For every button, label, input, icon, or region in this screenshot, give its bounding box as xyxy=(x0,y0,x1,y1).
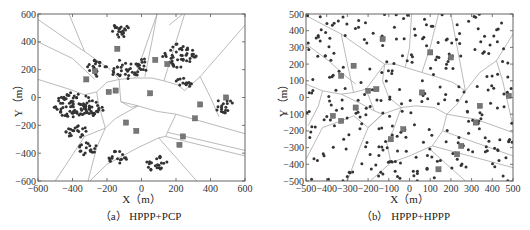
user-point xyxy=(375,98,378,101)
user-point xyxy=(66,94,69,97)
base-station-marker xyxy=(353,105,358,110)
user-point xyxy=(65,105,68,108)
user-point xyxy=(403,37,406,40)
user-point xyxy=(404,136,407,139)
user-point xyxy=(93,151,96,154)
user-point xyxy=(478,127,481,130)
user-point xyxy=(436,160,439,163)
user-point xyxy=(434,58,437,61)
user-point xyxy=(479,117,482,120)
user-point xyxy=(179,66,182,69)
user-point xyxy=(159,156,162,159)
user-point xyxy=(476,85,479,88)
user-point xyxy=(57,99,60,102)
user-point xyxy=(388,95,391,98)
base-station-marker xyxy=(153,57,158,62)
user-point xyxy=(390,72,393,75)
user-point xyxy=(411,55,414,58)
user-point xyxy=(443,98,446,101)
user-point xyxy=(319,15,322,18)
user-point xyxy=(496,40,499,43)
user-point xyxy=(380,126,383,129)
user-point xyxy=(492,87,495,90)
y-tick-label: 100 xyxy=(289,75,304,86)
y-tick-label: 300 xyxy=(289,42,304,53)
user-point xyxy=(413,28,416,31)
user-point xyxy=(181,82,184,85)
y-tick-label: 600 xyxy=(21,9,36,20)
user-point xyxy=(121,153,124,156)
user-point xyxy=(401,110,404,113)
user-point xyxy=(455,38,458,41)
user-point xyxy=(96,110,99,113)
user-point xyxy=(85,146,88,149)
user-point xyxy=(124,29,127,32)
user-point xyxy=(178,48,181,51)
user-point xyxy=(381,44,384,47)
user-point xyxy=(325,115,328,118)
voronoi-edge xyxy=(119,79,138,107)
base-station-marker xyxy=(165,62,170,67)
plot-frame xyxy=(38,14,245,181)
user-point xyxy=(359,116,362,119)
user-point xyxy=(125,158,128,161)
user-point xyxy=(116,33,119,36)
user-point xyxy=(94,62,97,65)
user-point xyxy=(479,40,482,43)
user-point xyxy=(78,145,81,148)
user-point xyxy=(182,45,185,48)
user-point xyxy=(112,67,115,70)
user-point xyxy=(487,89,490,92)
user-point xyxy=(142,64,145,67)
user-point xyxy=(386,146,389,149)
user-point xyxy=(510,87,513,90)
user-point xyxy=(147,166,150,169)
y-tick-label: −200 xyxy=(283,125,304,136)
user-point xyxy=(332,52,335,55)
user-point xyxy=(365,42,368,45)
user-point xyxy=(392,62,395,65)
user-point xyxy=(489,102,492,105)
user-point xyxy=(87,96,90,99)
user-point xyxy=(306,14,309,17)
user-point xyxy=(506,61,509,64)
user-point xyxy=(422,141,425,144)
user-point xyxy=(487,140,490,143)
panel-b: −500−400−300−200−1000100200300400500−500… xyxy=(265,0,530,230)
base-station-marker xyxy=(374,87,379,92)
user-point xyxy=(136,73,139,76)
base-station-marker xyxy=(148,91,153,96)
user-point xyxy=(156,163,159,166)
user-point xyxy=(64,114,67,117)
user-point xyxy=(497,28,500,31)
user-point xyxy=(335,109,338,112)
user-point xyxy=(72,96,75,99)
user-point xyxy=(226,102,229,105)
user-point xyxy=(428,147,431,150)
plot-area xyxy=(38,14,245,181)
user-point xyxy=(77,130,80,133)
base-station-marker xyxy=(388,137,393,142)
user-point xyxy=(88,69,91,72)
base-station-marker xyxy=(330,113,335,118)
base-station-marker xyxy=(477,103,482,108)
user-point xyxy=(481,52,484,55)
user-point xyxy=(142,68,145,71)
user-point xyxy=(450,41,453,44)
user-point xyxy=(466,111,469,114)
user-point xyxy=(138,64,141,67)
voronoi-edge xyxy=(422,14,439,72)
user-point xyxy=(439,159,442,162)
user-point xyxy=(329,59,332,62)
user-point xyxy=(89,148,92,151)
user-point xyxy=(307,48,310,51)
user-point xyxy=(501,60,504,63)
voronoi-edge xyxy=(176,114,245,133)
user-point xyxy=(398,88,401,91)
user-point xyxy=(485,145,488,148)
user-point xyxy=(84,151,87,154)
user-point xyxy=(447,60,450,63)
caption-a: （a） HPPP+PCP xyxy=(8,207,273,223)
user-point xyxy=(88,99,91,102)
user-point xyxy=(316,159,319,162)
